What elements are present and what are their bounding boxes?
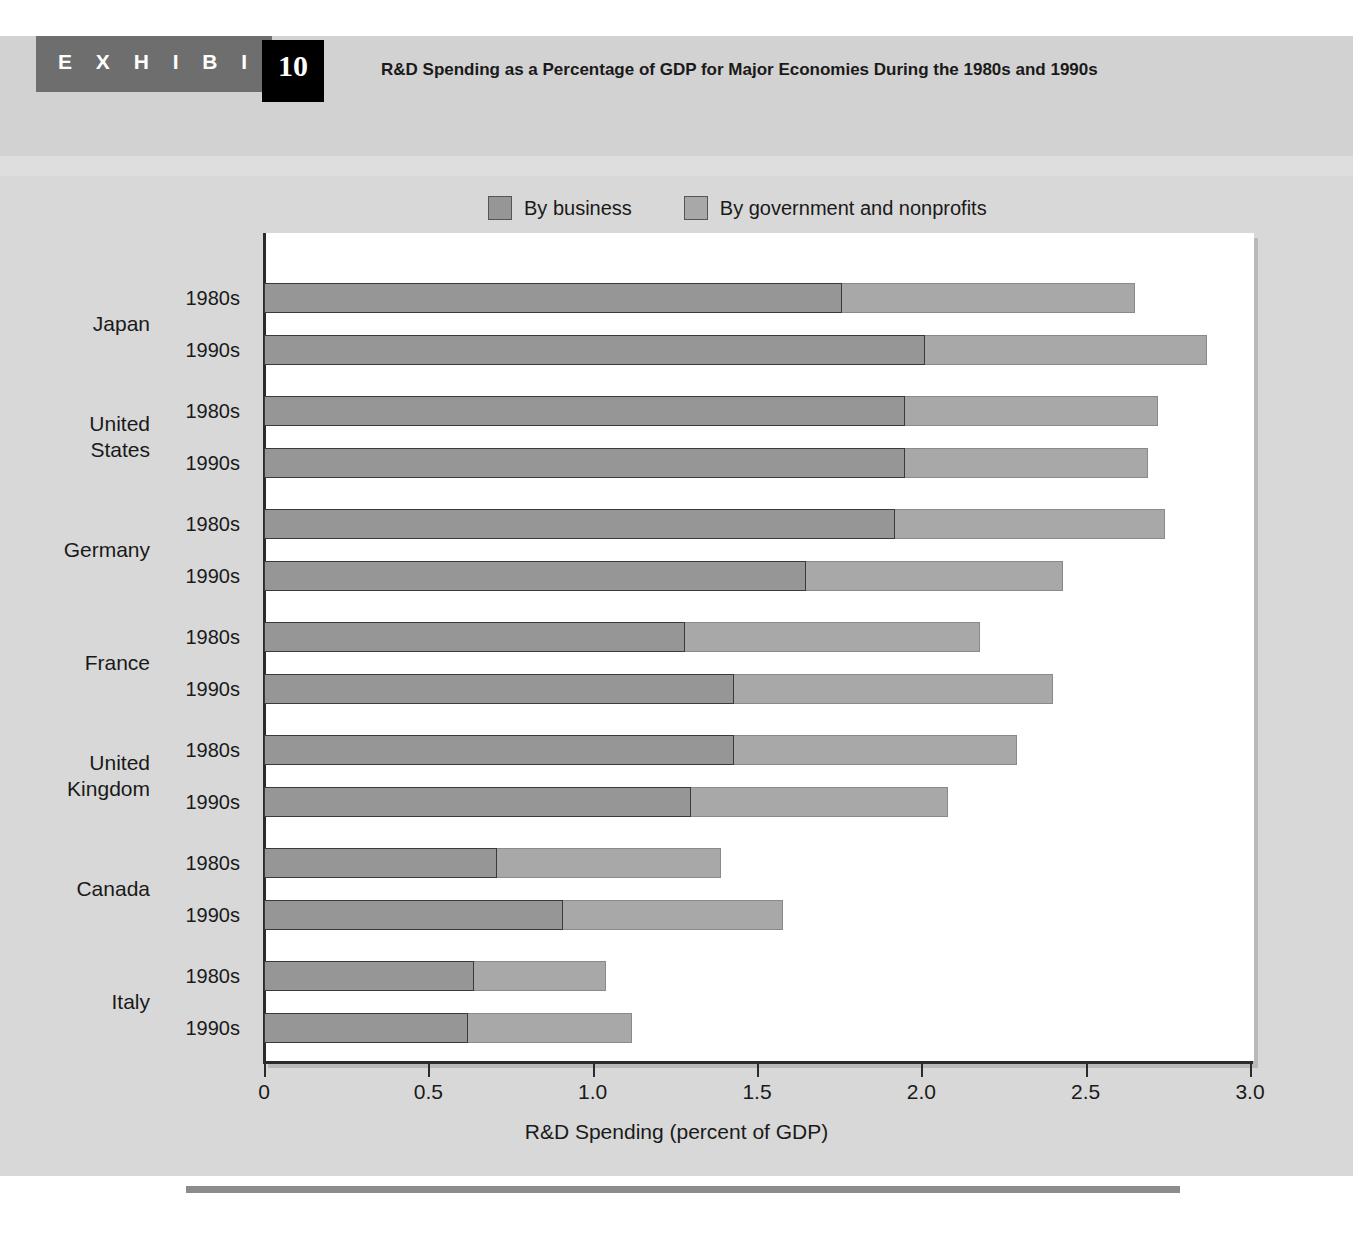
- bar-segment-government: [563, 900, 783, 930]
- decade-label: 1990s: [150, 565, 240, 588]
- bar-segment-government: [905, 448, 1148, 478]
- decade-label: 1980s: [150, 513, 240, 536]
- x-tick: [593, 1064, 595, 1077]
- x-axis-title: R&D Spending (percent of GDP): [0, 1120, 1353, 1144]
- country-label: Germany: [0, 537, 150, 563]
- bar-row: [264, 787, 948, 817]
- country-label: UnitedStates: [0, 411, 150, 463]
- bar-segment-government: [842, 283, 1135, 313]
- bar-segment-government: [806, 561, 1062, 591]
- bar-segment-government: [734, 735, 1017, 765]
- bar-segment-business: [264, 561, 806, 591]
- decade-label: 1990s: [150, 904, 240, 927]
- bar-segment-business: [264, 622, 685, 652]
- decade-label: 1980s: [150, 626, 240, 649]
- header-band-lower: [0, 156, 1353, 176]
- x-tick: [264, 1064, 266, 1077]
- bar-row: [264, 335, 1207, 365]
- bar-segment-government: [685, 622, 981, 652]
- footer-band: [0, 1176, 1353, 1233]
- legend-item-government: By government and nonprofits: [684, 196, 987, 220]
- x-tick-label: 2.0: [907, 1080, 936, 1104]
- bar-segment-business: [264, 674, 734, 704]
- decade-label: 1990s: [150, 678, 240, 701]
- bar-segment-government: [497, 848, 720, 878]
- exhibit-number: 10: [262, 49, 324, 83]
- country-label: Japan: [0, 311, 150, 337]
- decade-label: 1990s: [150, 1017, 240, 1040]
- bar-segment-business: [264, 735, 734, 765]
- bar-row: [264, 735, 1017, 765]
- x-tick-label: 1.5: [742, 1080, 771, 1104]
- bar-segment-business: [264, 787, 691, 817]
- country-label: Canada: [0, 876, 150, 902]
- bar-segment-business: [264, 1013, 468, 1043]
- country-label: UnitedKingdom: [0, 750, 150, 802]
- x-tick: [757, 1064, 759, 1077]
- legend-swatch-business: [488, 196, 512, 220]
- bar-row: [264, 283, 1135, 313]
- bar-row: [264, 509, 1165, 539]
- bar-segment-business: [264, 961, 474, 991]
- decade-label: 1990s: [150, 452, 240, 475]
- bar-row: [264, 961, 606, 991]
- decade-label: 1980s: [150, 965, 240, 988]
- legend-label-government: By government and nonprofits: [720, 197, 987, 220]
- bar-row: [264, 561, 1063, 591]
- bar-row: [264, 674, 1053, 704]
- x-tick-label: 0.5: [414, 1080, 443, 1104]
- bar-segment-government: [468, 1013, 632, 1043]
- country-label: France: [0, 650, 150, 676]
- decade-label: 1980s: [150, 852, 240, 875]
- chart-legend: By business By government and nonprofits: [488, 195, 987, 221]
- x-tick: [921, 1064, 923, 1077]
- page-title: R&D Spending as a Percentage of GDP for …: [381, 57, 1221, 82]
- x-tick-label: 2.5: [1071, 1080, 1100, 1104]
- decade-label: 1980s: [150, 400, 240, 423]
- bar-segment-business: [264, 396, 905, 426]
- bar-row: [264, 1013, 632, 1043]
- legend-swatch-government: [684, 196, 708, 220]
- bar-segment-government: [734, 674, 1053, 704]
- bar-segment-business: [264, 448, 905, 478]
- decade-label: 1990s: [150, 791, 240, 814]
- bar-segment-government: [905, 396, 1158, 426]
- bar-row: [264, 900, 783, 930]
- bar-segment-business: [264, 848, 497, 878]
- country-label: Italy: [0, 989, 150, 1015]
- bar-segment-government: [895, 509, 1165, 539]
- decade-label: 1980s: [150, 739, 240, 762]
- footer-rule: [186, 1186, 1180, 1193]
- x-tick: [428, 1064, 430, 1077]
- exhibit-page: E X H I B I T 10 R&D Spending as a Perce…: [0, 0, 1353, 1233]
- bar-segment-government: [925, 335, 1208, 365]
- x-tick: [1086, 1064, 1088, 1077]
- bar-segment-business: [264, 509, 895, 539]
- bar-row: [264, 396, 1158, 426]
- x-tick-label: 0: [258, 1080, 270, 1104]
- exhibit-word: E X H I B I T: [58, 50, 293, 74]
- bar-segment-government: [691, 787, 947, 817]
- x-tick-label: 1.0: [578, 1080, 607, 1104]
- decade-label: 1980s: [150, 287, 240, 310]
- legend-label-business: By business: [524, 197, 632, 220]
- bar-segment-business: [264, 900, 563, 930]
- bar-row: [264, 448, 1148, 478]
- decade-label: 1990s: [150, 339, 240, 362]
- bar-segment-business: [264, 335, 925, 365]
- legend-item-business: By business: [488, 196, 632, 220]
- x-tick-label: 3.0: [1235, 1080, 1264, 1104]
- x-tick: [1250, 1064, 1252, 1077]
- bar-row: [264, 622, 980, 652]
- bar-segment-government: [474, 961, 605, 991]
- bar-row: [264, 848, 721, 878]
- bar-segment-business: [264, 283, 842, 313]
